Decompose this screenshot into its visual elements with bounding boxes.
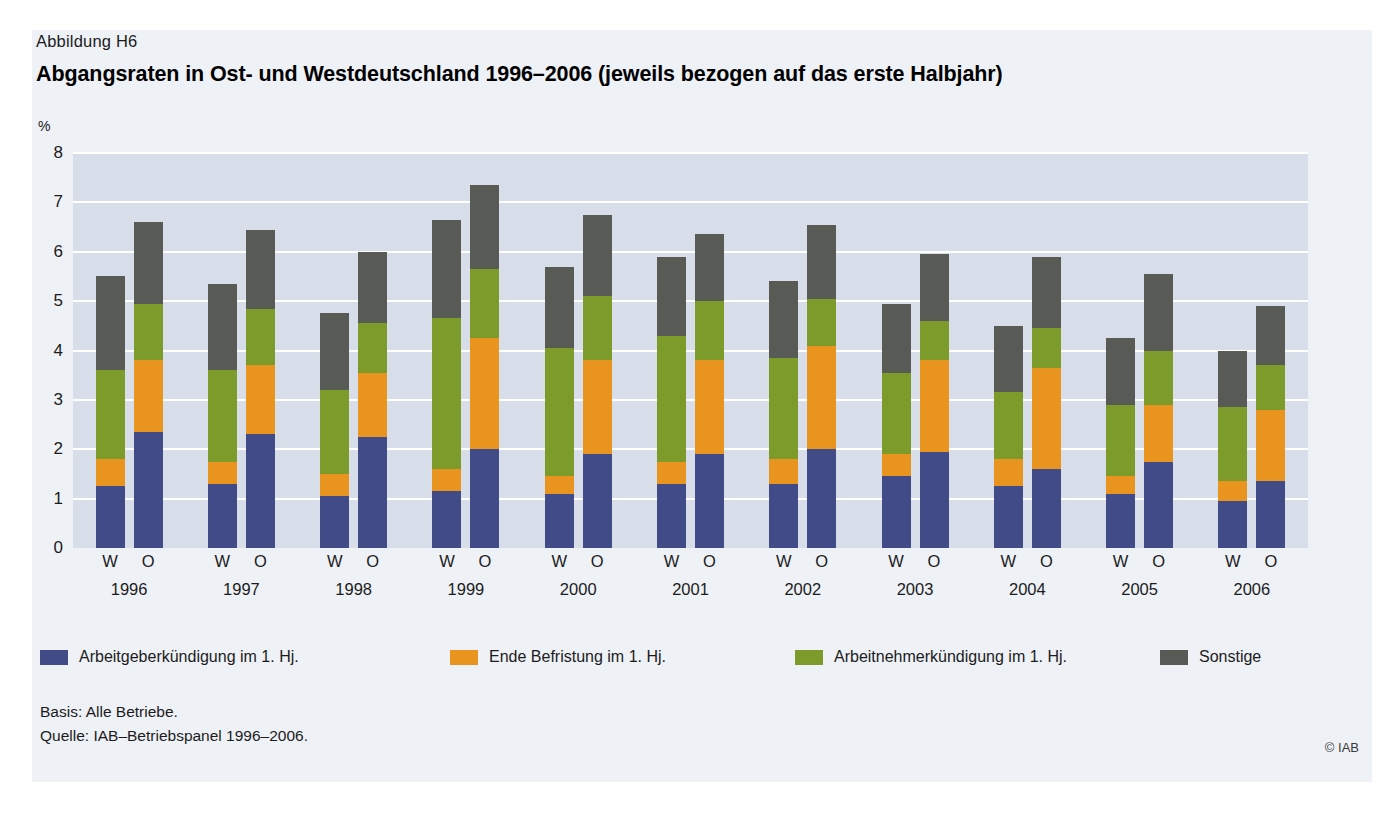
bar-segment [134, 360, 163, 432]
bar-segment [1032, 328, 1061, 368]
bar-segment [246, 230, 275, 309]
bar-segment [882, 476, 911, 548]
bar-stack [1032, 257, 1061, 548]
bar-segment [1032, 257, 1061, 329]
y-axis-tick-label: 0 [54, 538, 63, 558]
x-axis-region-label: O [815, 552, 828, 571]
bar-segment [208, 370, 237, 461]
bar-segment [695, 234, 724, 301]
bar-segment [358, 373, 387, 437]
chart-legend: Arbeitgeberkündigung im 1. Hj.Ende Befri… [40, 648, 1330, 672]
x-axis-region-label: O [1040, 552, 1053, 571]
bar-stack [807, 225, 836, 548]
x-axis-region-label: W [1113, 552, 1129, 571]
bar-stack [470, 185, 499, 548]
bar-segment [358, 323, 387, 372]
bar-stack [1106, 338, 1135, 548]
x-axis-region-label: O [1264, 552, 1277, 571]
bar-segment [545, 476, 574, 493]
bar-stack [134, 222, 163, 548]
bar-segment [583, 215, 612, 296]
bar-stack [920, 254, 949, 548]
bar-segment [320, 390, 349, 474]
legend-item[interactable]: Ende Befristung im 1. Hj. [450, 648, 666, 666]
bar-segment [1106, 338, 1135, 405]
bar-segment [358, 252, 387, 324]
x-axis-year-label: 2003 [897, 580, 934, 599]
legend-label: Arbeitgeberkündigung im 1. Hj. [79, 648, 299, 666]
bar-segment [1218, 351, 1247, 408]
bars-layer [73, 153, 1308, 548]
bar-segment [470, 269, 499, 338]
bar-segment [432, 491, 461, 548]
bar-segment [208, 484, 237, 548]
bar-stack [1144, 274, 1173, 548]
x-axis-year-label: 2001 [672, 580, 709, 599]
x-axis-year-label: 1999 [448, 580, 485, 599]
legend-item[interactable]: Arbeitnehmerkündigung im 1. Hj. [795, 648, 1067, 666]
bar-stack [246, 230, 275, 548]
bar-segment [470, 185, 499, 269]
bar-segment [134, 304, 163, 361]
bar-stack [695, 234, 724, 548]
bar-segment [1032, 469, 1061, 548]
legend-swatch-icon [40, 650, 68, 665]
legend-item[interactable]: Sonstige [1160, 648, 1261, 666]
legend-swatch-icon [1160, 650, 1188, 665]
x-axis-region-label: O [1152, 552, 1165, 571]
bar-segment [1144, 274, 1173, 351]
bar-segment [1256, 410, 1285, 482]
bar-segment [1218, 501, 1247, 548]
x-axis-year-label: 1997 [223, 580, 260, 599]
bar-stack [358, 252, 387, 548]
x-axis-region-label: W [551, 552, 567, 571]
bar-segment [769, 281, 798, 358]
bar-segment [583, 360, 612, 454]
bar-stack [96, 276, 125, 548]
bar-segment [769, 459, 798, 484]
x-axis-region-label: W [439, 552, 455, 571]
x-axis-region-label: O [479, 552, 492, 571]
bar-segment [657, 484, 686, 548]
bar-segment [96, 370, 125, 459]
copyright-mark: © IAB [1325, 740, 1359, 755]
bar-segment [320, 496, 349, 548]
x-axis-year-label: 2006 [1234, 580, 1271, 599]
bar-segment [320, 474, 349, 496]
x-axis-region-label: W [888, 552, 904, 571]
legend-item[interactable]: Arbeitgeberkündigung im 1. Hj. [40, 648, 299, 666]
bar-segment [1144, 462, 1173, 548]
bar-segment [769, 358, 798, 459]
bar-segment [695, 301, 724, 360]
bar-segment [695, 454, 724, 548]
bar-segment [545, 348, 574, 476]
bar-segment [769, 484, 798, 548]
y-axis-tick-label: 5 [54, 291, 63, 311]
bar-stack [545, 267, 574, 548]
chart-plot-wrapper: 012345678 [73, 153, 1308, 548]
y-axis-tick-label: 1 [54, 489, 63, 509]
bar-segment [994, 486, 1023, 548]
bar-segment [807, 449, 836, 548]
bar-stack [320, 313, 349, 548]
bar-segment [882, 373, 911, 454]
bar-segment [920, 452, 949, 548]
figure-title: Abgangsraten in Ost- und Westdeutschland… [36, 62, 1296, 87]
bar-segment [657, 257, 686, 336]
bar-segment [583, 454, 612, 548]
basis-note: Basis: Alle Betriebe. [40, 700, 308, 724]
x-axis: WO1996WO1997WO1998WO1999WO2000WO2001WO20… [73, 552, 1308, 612]
bar-segment [807, 225, 836, 299]
bar-segment [807, 299, 836, 346]
x-axis-year-label: 2000 [560, 580, 597, 599]
x-axis-year-label: 1996 [111, 580, 148, 599]
bar-segment [882, 454, 911, 476]
bar-segment [208, 284, 237, 370]
bar-segment [432, 469, 461, 491]
bar-segment [807, 346, 836, 450]
bar-segment [320, 313, 349, 390]
legend-label: Arbeitnehmerkündigung im 1. Hj. [834, 648, 1067, 666]
legend-swatch-icon [450, 650, 478, 665]
x-axis-year-label: 2004 [1009, 580, 1046, 599]
figure-number: Abbildung H6 [36, 32, 137, 51]
